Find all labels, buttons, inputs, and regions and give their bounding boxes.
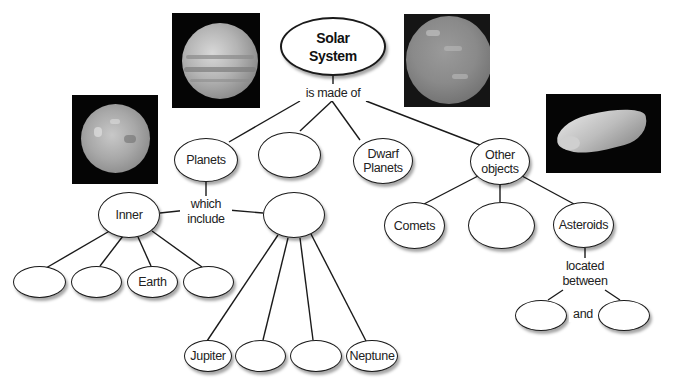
- node-dwarf-label-2: Planets: [363, 161, 403, 175]
- link-located: located: [555, 259, 615, 274]
- node-inner: Inner: [98, 192, 160, 238]
- outer-planet-2: [235, 340, 286, 372]
- node-other-objects: Other objects: [470, 138, 530, 185]
- inner-planet-4: [183, 266, 234, 298]
- outer-planet-neptune: Neptune: [346, 340, 398, 372]
- node-dwarf-planets: Dwarf Planets: [353, 138, 413, 184]
- node-other-label-1: Other: [485, 148, 515, 162]
- asteroid-bound-2: [598, 300, 650, 331]
- asteroid-photo: [546, 94, 661, 173]
- asteroid-bound-1: [515, 300, 567, 331]
- root-node-solar-system: Solar System: [280, 17, 386, 76]
- root-label-line2: System: [309, 47, 357, 65]
- link-and: and: [569, 307, 597, 322]
- outer-planet-1-label: Jupiter: [190, 349, 225, 363]
- node-inner-label: Inner: [116, 208, 143, 222]
- link-is-made-of: is made of: [288, 86, 378, 101]
- outer-planet-4-label: Neptune: [349, 349, 394, 363]
- inner-planet-earth: Earth: [127, 266, 178, 298]
- link-which: which: [180, 197, 232, 212]
- node-other-label-2: objects: [481, 162, 519, 176]
- node-outer-blank: [263, 192, 325, 238]
- dwarf-planet-photo: [404, 14, 490, 107]
- jupiter-photo: [172, 13, 260, 108]
- node-dwarf-label-1: Dwarf: [367, 147, 398, 161]
- node-other-blank: [468, 202, 535, 249]
- link-which-include: which include: [180, 197, 232, 226]
- inner-planet-2: [71, 266, 122, 298]
- outer-planet-3: [290, 340, 342, 372]
- inner-planet-1: [13, 266, 66, 298]
- node-comets-label: Comets: [394, 219, 435, 233]
- concept-map: Solar System is made of Planets Dwarf Pl…: [0, 0, 673, 386]
- node-blank-level1: [258, 132, 321, 178]
- link-include: include: [180, 212, 232, 227]
- node-planets-label: Planets: [186, 153, 226, 167]
- node-comets: Comets: [384, 202, 445, 249]
- node-asteroids: Asteroids: [553, 202, 614, 248]
- link-located-between: located between: [555, 259, 615, 288]
- root-label-line1: Solar: [316, 29, 350, 47]
- link-between: between: [555, 274, 615, 289]
- mars-photo: [72, 95, 158, 184]
- node-planets: Planets: [174, 138, 238, 182]
- inner-planet-3-label: Earth: [138, 275, 166, 289]
- node-asteroids-label: Asteroids: [559, 218, 608, 232]
- outer-planet-jupiter: Jupiter: [184, 340, 232, 372]
